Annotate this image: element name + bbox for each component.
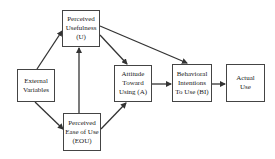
- edge-ev-to-eou: [35, 102, 63, 129]
- node-label-line: Perceived: [68, 119, 96, 128]
- node-label-line: Ease of Use: [65, 128, 98, 137]
- node-label-line: Using (A): [119, 88, 147, 97]
- node-label-line: Intentions: [178, 79, 206, 88]
- node-actual-use: Actual Use: [226, 64, 265, 102]
- node-perceived-usefulness: Perceived Usefulness (U): [62, 10, 100, 47]
- node-label-line: Actual: [236, 74, 255, 83]
- node-label-line: Behavioral: [177, 70, 208, 79]
- node-label-line: Variables: [23, 86, 49, 95]
- node-attitude-toward-using: Attitude Toward Using (A): [114, 65, 152, 102]
- node-label-line: Toward: [122, 79, 143, 88]
- node-label-line: Attitude: [122, 70, 145, 79]
- edge-u-to-a: [100, 35, 127, 64]
- node-behavioral-intentions: Behavioral Intentions To Use (BI): [172, 64, 212, 102]
- node-label-line: Use: [240, 83, 251, 92]
- edge-eou-to-a: [101, 103, 126, 129]
- node-label-line: Perceived: [67, 15, 95, 24]
- node-label-line: (U): [76, 33, 86, 42]
- edge-ev-to-u: [37, 31, 62, 69]
- node-label-line: (EOU): [72, 137, 91, 146]
- node-label-line: To Use (BI): [175, 88, 208, 97]
- node-label-line: External: [24, 77, 48, 86]
- node-label-line: Usefulness: [66, 24, 97, 33]
- node-external-variables: External Variables: [17, 69, 55, 102]
- edge-u-to-bi: [100, 26, 187, 63]
- node-perceived-ease-of-use: Perceived Ease of Use (EOU): [63, 113, 101, 151]
